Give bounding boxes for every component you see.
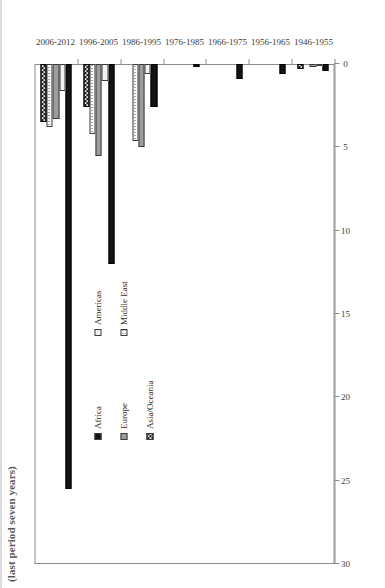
bar-europe bbox=[52, 64, 58, 119]
category-label: 1996-2005 bbox=[79, 37, 118, 47]
legend-item-label: Americas bbox=[92, 291, 102, 325]
bar-asiaoceania bbox=[40, 64, 46, 122]
value-tick-label: 0 bbox=[343, 59, 348, 69]
bar-africa bbox=[150, 64, 156, 107]
legend-item-label: Middle East bbox=[118, 281, 128, 325]
bar-asiaoceania bbox=[83, 64, 89, 107]
category-tick bbox=[77, 59, 78, 64]
legend-item-label: Europe bbox=[118, 403, 128, 429]
legend-swatch-europe-icon bbox=[120, 433, 127, 440]
bar-africa bbox=[322, 64, 328, 71]
value-tick bbox=[334, 563, 339, 564]
legend-swatch-asiaoceania-icon bbox=[146, 433, 153, 440]
bar-africa bbox=[236, 64, 242, 79]
category-tick bbox=[205, 59, 206, 64]
bar-africa bbox=[193, 64, 199, 67]
category-axis bbox=[34, 563, 335, 564]
bar-middleeast bbox=[46, 64, 52, 127]
page-rule-divider bbox=[0, 0, 1, 588]
category-tick bbox=[248, 59, 249, 64]
bar-asiaoceania bbox=[297, 64, 303, 69]
bar-europe bbox=[95, 64, 101, 156]
value-tick bbox=[334, 313, 339, 314]
legend-item-americas[interactable]: Americas bbox=[92, 291, 102, 336]
value-tick-label: 5 bbox=[343, 142, 348, 152]
value-tick-label: 10 bbox=[341, 226, 350, 236]
bar-europe bbox=[309, 64, 315, 67]
bar-americas bbox=[59, 64, 65, 91]
bar-middleeast bbox=[89, 64, 95, 134]
legend-item-label: Africa bbox=[92, 406, 102, 429]
value-tick bbox=[334, 396, 339, 397]
value-tick-label: 25 bbox=[341, 476, 350, 486]
value-tick-label: 20 bbox=[341, 392, 350, 402]
bar-americas bbox=[144, 64, 150, 74]
category-tick bbox=[334, 59, 335, 64]
value-tick bbox=[334, 146, 339, 147]
bar-africa bbox=[65, 64, 71, 489]
chart-legend: AfricaAmericasEuropeMiddle EastAsia/Ocea… bbox=[92, 230, 184, 440]
category-label: 1986-1995 bbox=[122, 37, 161, 47]
category-label: 1966-1975 bbox=[207, 37, 246, 47]
category-label: 1976-1985 bbox=[165, 37, 204, 47]
value-tick bbox=[334, 480, 339, 481]
bar-americas bbox=[101, 64, 107, 81]
legend-item-europe[interactable]: Europe bbox=[118, 403, 128, 440]
bar-europe bbox=[138, 64, 144, 147]
legend-item-middleeast[interactable]: Middle East bbox=[118, 281, 128, 336]
category-label: 2006-2012 bbox=[36, 37, 75, 47]
bar-middleeast bbox=[132, 64, 138, 141]
bar-americas bbox=[316, 64, 322, 66]
legend-item-label: Asia/Oceania bbox=[144, 381, 154, 429]
legend-item-africa[interactable]: Africa bbox=[92, 406, 102, 440]
legend-swatch-middleeast-icon bbox=[120, 329, 127, 336]
category-tick bbox=[120, 59, 121, 64]
legend-swatch-africa-icon bbox=[94, 433, 101, 440]
value-tick-label: 30 bbox=[341, 559, 350, 569]
chart-figure: (last period seven years) 051015202530 1… bbox=[0, 0, 385, 588]
category-label: 1956-1965 bbox=[250, 37, 289, 47]
category-tick bbox=[291, 59, 292, 64]
bar-africa bbox=[279, 64, 285, 74]
category-label: 1946-1955 bbox=[293, 37, 332, 47]
value-tick bbox=[334, 230, 339, 231]
category-tick bbox=[163, 59, 164, 64]
value-tick-label: 15 bbox=[341, 309, 350, 319]
chart-title-fragment: (last period seven years) bbox=[4, 466, 16, 582]
legend-item-asiaoceania[interactable]: Asia/Oceania bbox=[144, 381, 154, 440]
legend-swatch-americas-icon bbox=[94, 329, 101, 336]
